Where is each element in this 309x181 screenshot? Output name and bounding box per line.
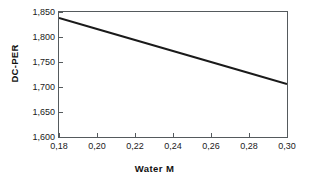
series-line: [59, 18, 287, 84]
y-tick-label: 1,750: [9, 58, 55, 67]
x-tick-label: 0,24: [153, 142, 193, 151]
x-axis-tick: [97, 133, 98, 137]
y-tick-label: 1,650: [9, 108, 55, 117]
plot-area: [58, 11, 288, 138]
chart-figure: DC-PER 1,850 1,800 1,750 1,700 1,650 1,6…: [0, 0, 309, 181]
x-tick-label: 0,26: [191, 142, 231, 151]
y-axis-tick: [59, 112, 63, 113]
x-axis-tick: [135, 133, 136, 137]
x-tick-label: 0,22: [115, 142, 155, 151]
plot-inner: [59, 12, 287, 137]
y-axis-tick: [59, 37, 63, 38]
x-axis-tick: [59, 133, 60, 137]
x-tick-label: 0,20: [77, 142, 117, 151]
y-tick-label: 1,600: [9, 133, 55, 142]
y-axis-tick: [59, 87, 63, 88]
x-axis-tick: [211, 133, 212, 137]
x-tick-label: 0,28: [229, 142, 269, 151]
x-axis-tick: [173, 133, 174, 137]
y-axis-tick: [59, 62, 63, 63]
y-axis-tick: [59, 12, 63, 13]
y-tick-label: 1,850: [9, 8, 55, 17]
y-tick-label: 1,700: [9, 83, 55, 92]
x-axis-title: Water M: [0, 163, 309, 174]
x-axis-tick: [249, 133, 250, 137]
data-series-line: [59, 12, 287, 137]
x-tick-label: 0,30: [267, 142, 307, 151]
y-tick-label: 1,800: [9, 33, 55, 42]
x-tick-label: 0,18: [39, 142, 79, 151]
